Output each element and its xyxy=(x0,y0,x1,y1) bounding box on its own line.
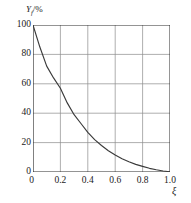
x-axis-label: ξ xyxy=(172,186,176,196)
x-tick-label: 0.4 xyxy=(75,176,101,186)
x-tick-label: 1.0 xyxy=(157,176,183,186)
x-tick-label: 0.2 xyxy=(47,176,73,186)
x-axis-tick-labels: 0 0.2 0.4 0.6 0.8 1.0 xyxy=(0,0,191,203)
x-tick-label: 0.8 xyxy=(130,176,156,186)
x-tick-label: 0.6 xyxy=(102,176,128,186)
chart-figure: Yf/% 100 80 60 40 20 0 xyxy=(0,0,191,203)
x-tick-label-origin: 0 xyxy=(20,176,34,186)
